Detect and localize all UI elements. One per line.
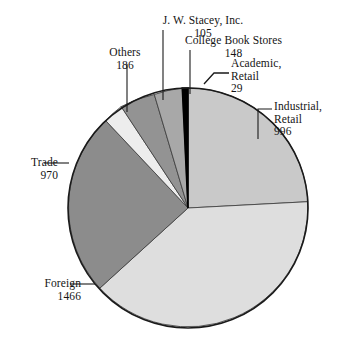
pie-chart: J. W. Stacey, Inc. 105 College Book Stor… [0,0,355,346]
slice-label-trade: Trade 970 [3,156,58,181]
slice-label-name-line1: Academic, [231,57,301,70]
slice-label-others: Others 186 [95,46,155,71]
slice-label-name: J. W. Stacey, Inc. [143,14,263,27]
slice-label-industrial-retail: Industrial, Retail 996 [274,100,352,138]
slice-label-value: 996 [274,125,352,138]
slice-label-college-book-stores: College Book Stores 148 [171,34,296,59]
slice-label-name: Foreign [11,277,81,290]
slice-label-name-line2: Retail [274,113,352,126]
slice-label-foreign: Foreign 1466 [11,277,81,302]
slice-label-name-line1: Industrial, [274,100,352,113]
leader-line-academic [204,73,229,84]
slice-label-academic-retail: Academic, Retail 29 [231,57,301,95]
slice-label-value: 970 [3,169,58,182]
slice-label-value: 1466 [11,290,81,303]
slice-label-name: Trade [3,156,58,169]
slice-label-value: 29 [231,82,301,95]
slice-label-value: 186 [95,59,155,72]
slice-label-name: College Book Stores [171,34,296,47]
slice-label-name: Others [95,46,155,59]
slice-label-name-line2: Retail [231,70,301,83]
